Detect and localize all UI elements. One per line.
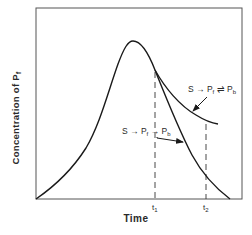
- curve-rise-peak: [36, 41, 155, 199]
- x-tick-t1: t1: [152, 203, 158, 213]
- annotation-arrow-irreversible: [157, 137, 183, 142]
- annotation-arrow-equilibrium: [193, 97, 207, 111]
- annotation-irreversible: S → Pf → Pb: [122, 126, 171, 137]
- chart-svg: S → Pf ⇌ Pb S → Pf → Pb t1 t2 Time Conce…: [0, 0, 252, 235]
- chart-figure: S → Pf ⇌ Pb S → Pf → Pb t1 t2 Time Conce…: [0, 0, 252, 235]
- x-tick-t2: t2: [203, 203, 209, 213]
- annotation-equilibrium: S → Pf ⇌ Pb: [188, 84, 237, 95]
- y-axis-label: Concentration of Pf: [10, 71, 22, 164]
- x-axis-label: Time: [123, 213, 148, 224]
- plot-frame: [36, 8, 242, 199]
- curve-equilibrium-branch: [155, 70, 218, 124]
